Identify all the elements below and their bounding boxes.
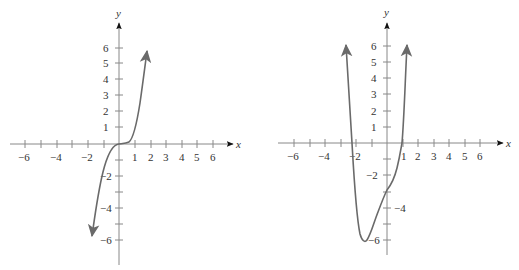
left-ytick-2: 2 [103,105,109,117]
left-xtick-neg2: −2 [81,151,93,163]
right-ytick-3: 3 [371,88,377,100]
right-xtick-5: 5 [462,150,468,162]
left-ytick-4: 4 [103,73,109,85]
left-ytick-neg4: −4 [100,202,112,214]
left-xtick-5: 5 [194,151,200,163]
left-ytick-1: 1 [103,121,109,133]
right-xtick-neg2: −2 [349,150,361,162]
figure: x y −6 −4 −2 1 2 3 4 5 6 [0,0,519,270]
right-x-tick-labels: −6 −4 −2 1 2 3 4 5 6 [287,150,483,162]
right-xtick-1: 1 [401,150,407,162]
left-xtick-1: 1 [132,151,138,163]
right-ytick-4: 4 [371,72,377,84]
left-ytick-3: 3 [103,89,109,101]
right-xtick-4: 4 [446,150,452,162]
left-x-tick-labels: −6 −4 −2 1 2 3 4 5 6 [18,151,216,163]
right-ytick-neg4: −4 [394,202,406,214]
right-xtick-neg6: −6 [287,150,299,162]
right-graph: x y −6 −4 −2 1 2 3 4 5 6 [278,6,511,255]
left-ytick-5: 5 [103,57,109,69]
left-xtick-neg4: −4 [50,151,62,163]
left-xtick-2: 2 [148,151,154,163]
right-ytick-6: 6 [371,40,377,52]
left-y-axis-label: y [115,7,121,19]
left-xtick-6: 6 [210,151,216,163]
right-y-axis-label: y [383,6,389,18]
right-xtick-6: 6 [477,150,483,162]
right-ytick-1: 1 [371,121,377,133]
right-ytick-5: 5 [371,56,377,68]
left-graph: x y −6 −4 −2 1 2 3 4 5 6 [10,7,241,265]
right-xtick-2: 2 [415,150,421,162]
left-ytick-6: 6 [103,42,109,54]
right-ytick-2: 2 [371,105,377,117]
left-x-axis-label: x [235,138,241,150]
right-x-axis-label: x [505,137,511,149]
right-xtick-3: 3 [431,150,437,162]
right-xtick-neg4: −4 [318,150,330,162]
left-xtick-3: 3 [163,151,169,163]
left-ytick-neg6: −6 [100,234,112,246]
right-ytick-neg2: −2 [366,169,378,181]
left-xtick-4: 4 [179,151,185,163]
left-xtick-neg6: −6 [18,151,30,163]
